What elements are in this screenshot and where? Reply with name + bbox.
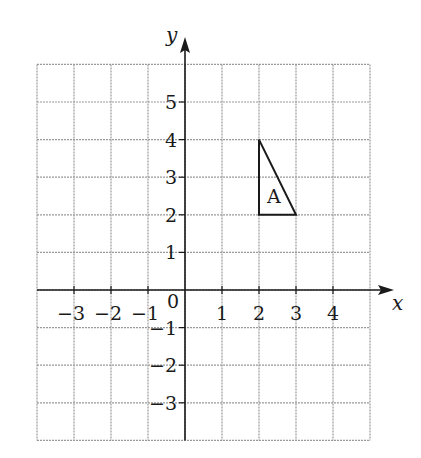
- x-tick-label: 2: [253, 302, 265, 324]
- y-tick-label: −2: [149, 354, 177, 376]
- shape-label: A: [266, 185, 281, 207]
- axes: [37, 37, 394, 440]
- coordinate-plane: −3−2−1123454321−1−2−30 A x y: [0, 0, 421, 458]
- y-tick-label: 5: [165, 91, 177, 113]
- x-tick-label: 1: [216, 302, 228, 324]
- y-tick-label: 4: [165, 129, 177, 151]
- y-tick-label: −3: [149, 392, 177, 414]
- x-tick-label: 3: [290, 302, 302, 324]
- y-tick-label: 3: [165, 166, 177, 188]
- x-tick-label: −2: [94, 302, 122, 324]
- y-tick-label: −1: [149, 317, 177, 339]
- y-tick-label: 2: [165, 204, 177, 226]
- origin-label: 0: [167, 290, 179, 312]
- y-axis-label: y: [165, 23, 178, 47]
- y-tick-label: 1: [165, 241, 177, 263]
- grid: [37, 64, 370, 440]
- x-tick-label: 4: [327, 302, 339, 324]
- x-tick-label: −3: [57, 302, 85, 324]
- x-axis-label: x: [392, 291, 403, 315]
